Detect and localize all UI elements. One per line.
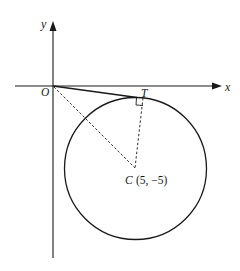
- tangent-segment-OT: [53, 86, 137, 98]
- y-axis-label: y: [40, 17, 47, 31]
- y-axis: [50, 21, 57, 258]
- origin-label: O: [41, 86, 50, 98]
- x-axis-arrow-icon: [212, 83, 222, 90]
- center-label: C: [125, 174, 133, 186]
- dashed-segment-TC: [135, 98, 143, 168]
- circle: [65, 98, 207, 240]
- tangent-point-label: T: [141, 87, 149, 99]
- x-axis-label: x: [224, 80, 231, 94]
- y-axis-arrow-icon: [50, 21, 57, 31]
- center-coords-label: (5, −5): [136, 174, 168, 187]
- diagram-canvas: y x O T C (5, −5): [0, 0, 240, 271]
